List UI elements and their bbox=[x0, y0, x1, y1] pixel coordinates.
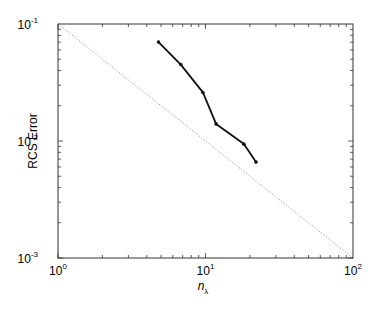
reference-line bbox=[58, 24, 353, 258]
axis-ticks bbox=[58, 24, 353, 258]
y-tick-label: 10-3 bbox=[18, 250, 39, 266]
data-point-marker bbox=[254, 160, 258, 164]
plot-series bbox=[58, 24, 353, 258]
y-axis-label: RCS Error bbox=[26, 113, 40, 168]
data-point-marker bbox=[214, 122, 218, 126]
data-line bbox=[159, 42, 257, 162]
plot-area-frame bbox=[58, 24, 353, 258]
x-tick-label: 102 bbox=[344, 262, 362, 278]
x-tick-label: 101 bbox=[197, 262, 215, 278]
data-point-marker bbox=[157, 40, 161, 44]
data-point-marker bbox=[201, 91, 205, 95]
data-point-marker bbox=[242, 142, 246, 146]
data-point-marker bbox=[179, 63, 183, 67]
y-tick-label: 10-1 bbox=[18, 16, 39, 32]
x-tick-label: 100 bbox=[49, 262, 67, 278]
x-axis-label-subscript: λ bbox=[204, 287, 208, 296]
x-axis-label: nλ bbox=[198, 279, 209, 296]
chart: 10010110210-310-210-1 RCS Error nλ bbox=[0, 0, 378, 309]
tick-labels: 10010110210-310-210-1 bbox=[18, 16, 363, 278]
